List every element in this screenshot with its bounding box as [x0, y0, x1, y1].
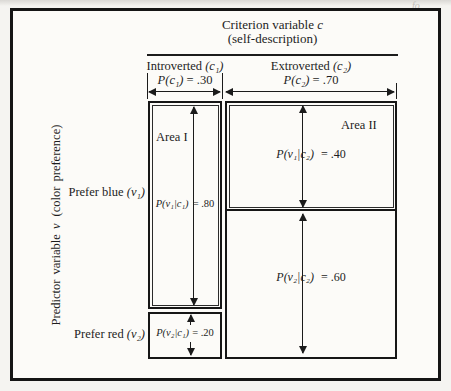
width-arrow-introverted [149, 91, 220, 92]
predictor-axis-symbol: v [49, 224, 63, 230]
scan-smudge [0, 0, 451, 6]
predictor-axis-label: Predictor variable v(color preference) [49, 115, 65, 335]
prob-v2c1-value: = .20 [192, 326, 214, 339]
scanned-figure-page: fo Criterion variable c (self-descriptio… [0, 0, 451, 391]
red-extroverted-cell [225, 211, 397, 359]
prob-label-area2: P(v₁|c₂)= .40 [225, 148, 397, 161]
criterion-underline [147, 54, 398, 56]
predictor-axis-text: Predictor variable [49, 229, 63, 325]
prob-c2-math: P(c₂) [284, 73, 310, 87]
prob-label-area1: P(v₁|c₁)= .80 [147, 197, 223, 210]
area2-label: Area II [341, 119, 377, 132]
prob-label-red-introverted: P(v₂|c₁)= .20 [144, 326, 226, 339]
prob-v1c2-value: = .40 [321, 148, 346, 161]
extroverted-label: Extroverted [271, 59, 333, 73]
column-prob-introverted: P(c₁) = .30 [143, 74, 227, 87]
predictor-axis-paren: (color preference) [49, 125, 63, 217]
column-header-extroverted: Extroverted (c₂) [225, 60, 397, 73]
prob-v2c2-value: = .60 [321, 271, 346, 284]
tick-right [396, 83, 397, 99]
height-arrow-red-introverted-top [190, 315, 191, 325]
prob-v2c1-math: P(v₂|c₁) [156, 326, 189, 339]
column-prob-extroverted: P(c₂) = .70 [225, 74, 397, 87]
height-arrow-red-introverted-bottom [190, 342, 191, 355]
introverted-symbol: (c₁) [205, 59, 223, 73]
extroverted-symbol: (c₂) [333, 59, 351, 73]
prefer-blue-symbol: (v₁) [127, 185, 145, 199]
introverted-label: Introverted [147, 59, 206, 73]
criterion-subtitle: (self-description) [147, 32, 398, 46]
prob-v1c1-value: = .80 [193, 197, 215, 210]
prefer-red-symbol: (v₂) [127, 327, 145, 341]
prob-v2c2-math: P(v₂|c₂) [276, 271, 314, 284]
column-header-introverted: Introverted (c₁) [143, 60, 227, 73]
prefer-red-text: Prefer red [74, 327, 127, 341]
prob-c1-value: = .30 [187, 73, 213, 87]
criterion-title-text: Criterion variable [222, 17, 317, 32]
width-arrow-extroverted [226, 91, 394, 92]
criterion-title-var: c [317, 17, 323, 32]
prob-v1c2-math: P(v₁|c₂) [276, 148, 314, 161]
prob-v1c1-math: P(v₁|c₁) [156, 197, 189, 210]
prefer-blue-text: Prefer blue [68, 185, 126, 199]
area1-label: Area I [156, 131, 188, 144]
prob-label-red-extroverted: P(v₂|c₂)= .60 [225, 271, 397, 284]
prob-c1-math: P(c₁) [158, 73, 184, 87]
tick-middle [222, 73, 223, 99]
criterion-title: Criterion variable c [147, 18, 398, 32]
prob-c2-value: = .70 [313, 73, 339, 87]
